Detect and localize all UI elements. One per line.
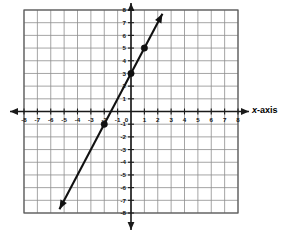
line-arrow-upper: [155, 14, 162, 24]
y-tick-label: 3: [123, 70, 127, 77]
x-tick-label: -5: [61, 116, 67, 123]
x-tick-label: -4: [75, 116, 81, 123]
y-tick-label: 6: [123, 32, 127, 39]
x-tick-label: -8: [21, 116, 27, 123]
x-tick-label: 4: [183, 116, 187, 123]
x-axis-caption: x-axis: [251, 105, 278, 115]
y-tick-label: -1: [120, 120, 126, 127]
x-tick-label: -7: [35, 116, 41, 123]
x-tick-label: 2: [156, 116, 160, 123]
y-tick-label: 8: [123, 6, 127, 13]
y-tick-label: -5: [120, 171, 126, 178]
x-tick-label: -6: [48, 116, 54, 123]
x-axis-arrow-right: [241, 108, 249, 115]
y-tick-label: -8: [120, 209, 126, 216]
data-point: [141, 45, 147, 51]
x-tick-label: 6: [210, 116, 214, 123]
y-tick-label: -2: [120, 133, 126, 140]
x-axis-arrow-left: [10, 108, 18, 115]
graph-figure: -8-7-6-5-4-3-2-1012345678-8-7-6-5-4-3-2-…: [0, 0, 282, 234]
axes-layer: [10, 3, 249, 230]
y-tick-label: 1: [123, 95, 127, 102]
y-tick-label: 5: [123, 44, 127, 51]
coordinate-plane-svg: -8-7-6-5-4-3-2-1012345678-8-7-6-5-4-3-2-…: [0, 0, 282, 234]
x-tick-label: 1: [143, 116, 147, 123]
y-tick-label: -3: [120, 146, 126, 153]
x-tick-label: 8: [236, 116, 240, 123]
x-tick-label: -3: [88, 116, 94, 123]
y-tick-label: 4: [123, 57, 127, 64]
line-arrow-lower: [59, 200, 66, 210]
data-point: [101, 121, 107, 127]
y-tick-label: -7: [120, 197, 126, 204]
y-tick-label: 7: [123, 19, 127, 26]
y-tick-label: -4: [120, 158, 126, 165]
x-tick-label: 5: [196, 116, 200, 123]
x-tick-label: 7: [223, 116, 227, 123]
y-axis-arrow-down: [128, 222, 135, 230]
x-tick-label: 3: [169, 116, 173, 123]
data-point: [128, 70, 134, 76]
y-tick-label: -6: [120, 184, 126, 191]
